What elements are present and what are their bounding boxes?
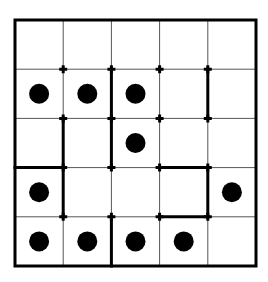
dot-icon — [126, 133, 146, 153]
dot-icon — [126, 231, 146, 251]
dot-icon — [77, 231, 97, 251]
grid-cell[interactable] — [208, 118, 256, 167]
dot-icon — [29, 84, 49, 104]
dot-icon — [29, 182, 49, 202]
grid-cell[interactable] — [208, 20, 256, 69]
dot-icon — [222, 182, 242, 202]
grid-cell[interactable] — [160, 168, 208, 217]
puzzle-board — [0, 0, 268, 282]
grid-cell[interactable] — [15, 118, 63, 167]
grid-cell[interactable] — [208, 217, 256, 266]
dot-icon — [174, 231, 194, 251]
dot-icon — [29, 231, 49, 251]
dot-icon — [77, 84, 97, 104]
grid-cell[interactable] — [208, 69, 256, 118]
grid-cell[interactable] — [160, 118, 208, 167]
grid-cell[interactable] — [63, 20, 111, 69]
grid-cell[interactable] — [15, 20, 63, 69]
grid-cell[interactable] — [111, 20, 159, 69]
grid-cell[interactable] — [160, 20, 208, 69]
grid-cell[interactable] — [63, 118, 111, 167]
grid-cell[interactable] — [63, 168, 111, 217]
grid-cell[interactable] — [111, 168, 159, 217]
grid-cell[interactable] — [160, 69, 208, 118]
dot-icon — [126, 84, 146, 104]
